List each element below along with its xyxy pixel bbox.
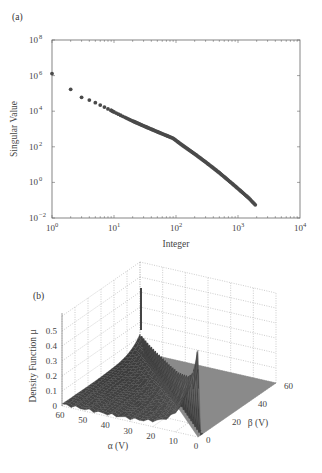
alpha-tick-label: 50 [78, 415, 88, 425]
x-tick-label: 104 [294, 221, 307, 233]
beta-axis-label: β (V) [248, 418, 268, 429]
z-tick-label: 0.3 [46, 356, 58, 366]
data-point [69, 87, 73, 91]
plot-frame [52, 40, 300, 218]
data-point [93, 101, 97, 105]
x-axis-label: Integer [163, 239, 191, 249]
y-tick-label: 108 [29, 33, 42, 45]
alpha-tick-label: 40 [101, 420, 111, 430]
alpha-tick-label: 30 [124, 426, 134, 436]
grid-line [62, 262, 140, 316]
beta-tick-label: 0 [206, 435, 211, 445]
y-tick-label: 100 [29, 175, 42, 187]
panel-label-a: (a) [12, 12, 23, 23]
data-point [87, 98, 91, 102]
grid-line [140, 277, 276, 308]
y-tick-labels: 10−2100102104106108 [29, 33, 46, 223]
beta-tick-label: 20 [232, 417, 242, 427]
z-axis-label: Density Function μ [28, 329, 38, 402]
grid-line [140, 262, 276, 293]
data-point [80, 95, 84, 99]
y-tick-label: 104 [29, 104, 43, 116]
z-tick-label: 0.2 [46, 371, 57, 381]
figure: (a) 100101102103104 10−2100102104106108 … [0, 0, 322, 473]
singular-value-plot: (a) 100101102103104 10−2100102104106108 … [9, 12, 307, 249]
x-tick-label: 102 [170, 221, 182, 233]
x-tick-label: 101 [108, 221, 120, 233]
axis-ticks [52, 40, 300, 218]
alpha-tick-label: 60 [56, 410, 66, 420]
grid-line [62, 307, 140, 361]
alpha-axis-label: α (V) [108, 441, 129, 452]
beta-tick-label: 60 [284, 381, 294, 391]
data-series [50, 72, 257, 207]
y-tick-label: 102 [29, 140, 42, 152]
panel-label-b: (b) [33, 291, 44, 302]
data-point [50, 72, 54, 76]
alpha-tick-label: 20 [146, 431, 156, 441]
data-point [98, 103, 102, 107]
x-tick-labels: 100101102103104 [46, 221, 307, 233]
density-surface-plot: (b) 00.10.20.30.40.560504030201000204060… [28, 262, 294, 452]
beta-tick-label: 40 [258, 399, 268, 409]
y-axis-label: Singular Value [9, 101, 19, 157]
x-tick-label: 103 [232, 221, 244, 233]
y-tick-label: 10−2 [29, 211, 46, 223]
y-tick-label: 106 [29, 69, 43, 81]
x-tick-label: 100 [46, 221, 58, 233]
z-tick-label: 0.4 [46, 341, 58, 351]
data-point [253, 203, 257, 207]
z-tick-label: 0.1 [46, 386, 57, 396]
z-tick-label: 0.5 [46, 326, 58, 336]
alpha-tick-label: 10 [169, 436, 179, 446]
alpha-tick-label: 0 [194, 441, 199, 451]
data-point [102, 105, 106, 109]
surface [62, 288, 276, 437]
grid-line [140, 292, 276, 323]
